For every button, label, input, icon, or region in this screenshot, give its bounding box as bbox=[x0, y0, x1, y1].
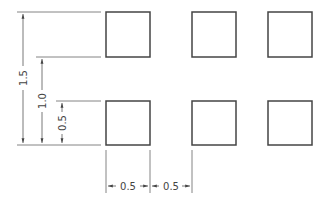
square-r2-c3 bbox=[268, 101, 312, 145]
technical-drawing: 1.5 1.0 0.5 0.5 0.5 bbox=[0, 0, 327, 207]
square-grid bbox=[106, 12, 312, 145]
dimension-label-0-5-horizontal-2: 0.5 bbox=[163, 181, 179, 192]
square-r2-c1 bbox=[106, 101, 150, 145]
square-r1-c1 bbox=[106, 12, 150, 57]
dimension-label-0-5-vertical: 0.5 bbox=[57, 115, 68, 131]
dimension-label-0-5-horizontal-1: 0.5 bbox=[120, 181, 136, 192]
dimension-label-1-0: 1.0 bbox=[37, 93, 48, 109]
square-r1-c2 bbox=[192, 12, 236, 57]
extension-lines-bottom bbox=[106, 150, 192, 193]
square-r1-c3 bbox=[268, 12, 312, 57]
square-r2-c2 bbox=[192, 101, 236, 145]
dimension-label-1-5: 1.5 bbox=[18, 70, 29, 86]
